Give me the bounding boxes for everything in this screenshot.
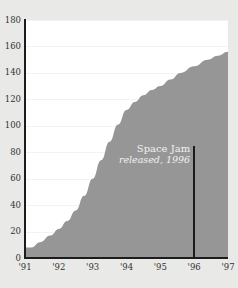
x-tick-label: '96	[188, 263, 201, 272]
x-tick-label: '97	[221, 263, 234, 272]
x-tick-label: '94	[120, 263, 133, 272]
x-tick-label: '92	[52, 263, 65, 272]
annotation-marker-line	[193, 146, 194, 258]
y-tick-label: 80	[0, 148, 21, 157]
y-tick-label: 100	[0, 121, 21, 130]
y-axis-spine	[24, 19, 26, 259]
y-tick-label: 120	[0, 95, 21, 104]
area-series-shape	[25, 20, 228, 258]
x-tick-label: '91	[18, 263, 31, 272]
x-tick-label: '93	[86, 263, 99, 272]
y-tick-label: 140	[0, 68, 21, 77]
area-chart: 020406080100120140160180 '91'92'93'94'95…	[0, 0, 238, 288]
x-tick-label: '95	[154, 263, 167, 272]
y-tick-label: 60	[0, 174, 21, 183]
annotation-label: Space Jam released, 1996	[119, 143, 190, 166]
y-tick-label: 160	[0, 42, 21, 51]
y-tick-label: 0	[0, 254, 21, 263]
plot-area	[25, 20, 228, 258]
x-axis-tick-labels: '91'92'93'94'95'96'97	[25, 263, 228, 279]
annotation-subtitle: released, 1996	[119, 154, 190, 165]
y-tick-label: 20	[0, 227, 21, 236]
y-axis-tick-labels: 020406080100120140160180	[0, 0, 21, 288]
y-tick-label: 180	[0, 16, 21, 25]
x-axis-spine	[25, 257, 228, 259]
y-tick-label: 40	[0, 201, 21, 210]
annotation-title: Space Jam	[119, 143, 190, 155]
